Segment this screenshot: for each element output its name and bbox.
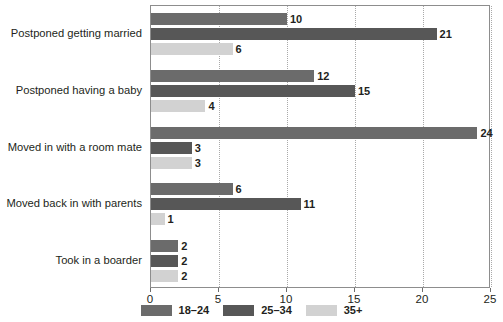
category-label: Moved in with a room mate: [0, 141, 142, 153]
bar-value-label: 6: [233, 183, 242, 195]
bar: [151, 240, 178, 252]
x-tick-mark: [286, 288, 287, 292]
legend-label: 25–34: [261, 304, 292, 316]
bar: [151, 198, 301, 210]
category-label: Moved back in with parents: [0, 197, 142, 209]
x-tick-mark: [218, 288, 219, 292]
legend-item[interactable]: 25–34: [223, 304, 292, 316]
bar-value-label: 12: [314, 70, 329, 82]
category-label: Postponed getting married: [0, 27, 142, 39]
bar-value-label: 3: [192, 142, 201, 154]
bar-value-label: 21: [437, 28, 452, 40]
bar: [151, 100, 205, 112]
category-label: Took in a boarder: [0, 254, 142, 266]
x-tick-mark: [490, 288, 491, 292]
legend-swatch: [223, 305, 254, 316]
category-axis: Postponed getting marriedPostponed havin…: [0, 5, 146, 288]
bar-value-label: 2: [178, 240, 187, 252]
bar: [151, 142, 192, 154]
bar-value-label: 15: [355, 85, 370, 97]
x-tick-mark: [150, 288, 151, 292]
bar-value-label: 24: [477, 127, 492, 139]
legend-swatch: [306, 305, 337, 316]
bar: [151, 85, 355, 97]
bar-value-label: 10: [287, 13, 302, 25]
legend-item[interactable]: 18–24: [141, 304, 210, 316]
bar: [151, 28, 437, 40]
grouped-bar-chart: Postponed getting marriedPostponed havin…: [0, 0, 503, 322]
bar: [151, 127, 477, 139]
bar: [151, 183, 233, 195]
x-tick-mark: [354, 288, 355, 292]
legend-item[interactable]: 35+: [306, 304, 363, 316]
bar: [151, 157, 192, 169]
bar-value-label: 2: [178, 255, 187, 267]
bar-value-label: 2: [178, 270, 187, 282]
bar-value-label: 11: [301, 198, 316, 210]
gridline: [491, 6, 492, 287]
bar: [151, 13, 287, 25]
bar-value-label: 1: [165, 213, 174, 225]
bar: [151, 213, 165, 225]
legend-label: 35+: [344, 304, 363, 316]
bar: [151, 70, 314, 82]
x-tick-mark: [422, 288, 423, 292]
bar-value-label: 4: [205, 100, 214, 112]
category-label: Postponed having a baby: [0, 84, 142, 96]
legend-label: 18–24: [179, 304, 210, 316]
plot-area: 102161215424336111222: [150, 5, 490, 288]
legend-swatch: [141, 305, 172, 316]
chart-legend: 18–2425–3435+: [0, 302, 503, 318]
bar: [151, 270, 178, 282]
bar-value-label: 6: [233, 43, 242, 55]
bar: [151, 255, 178, 267]
bar-value-label: 3: [192, 157, 201, 169]
bars-layer: 102161215424336111222: [151, 6, 489, 287]
bar: [151, 43, 233, 55]
